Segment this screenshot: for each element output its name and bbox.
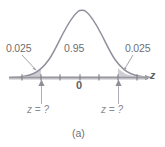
right-tail-probability-label: 0.025 — [125, 43, 150, 54]
left-critical-value-query-label: z = ? — [27, 105, 49, 115]
x-axis-label: z — [150, 70, 155, 81]
center-tick-label: 0 — [76, 80, 82, 91]
figure-caption: (a) — [72, 128, 85, 139]
right-probability-leader-line — [124, 55, 133, 70]
right-critical-value-query-label: z = ? — [101, 105, 123, 115]
distribution-plot-svg — [0, 0, 165, 147]
left-critical-value-arrowhead — [38, 80, 44, 87]
right-critical-value-arrowhead — [115, 80, 121, 87]
normal-distribution-figure: 0.025 0.95 0.025 0 z z = ? z = ? (a) — [0, 0, 165, 147]
central-area-probability-label: 0.95 — [64, 43, 84, 54]
left-tail-probability-label: 0.025 — [6, 43, 31, 54]
